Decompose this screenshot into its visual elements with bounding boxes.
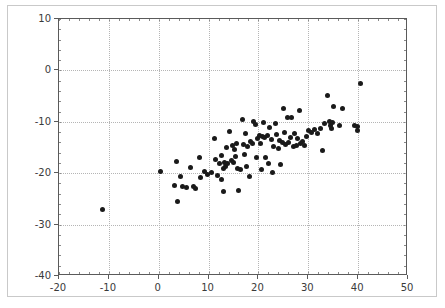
x-minor-tick	[378, 272, 379, 274]
scatter-point	[172, 183, 177, 188]
x-minor-tick	[248, 272, 249, 274]
x-minor-tick	[328, 19, 329, 21]
x-axis-tick	[407, 275, 408, 279]
x-minor-tick	[169, 19, 170, 21]
scatter-point	[236, 188, 241, 193]
x-minor-tick	[169, 272, 170, 274]
x-minor-tick	[189, 19, 190, 21]
x-minor-tick	[238, 272, 239, 274]
x-axis-tick	[108, 275, 109, 279]
scatter-point	[331, 104, 336, 109]
scatter-point	[315, 131, 320, 136]
scatter-point	[320, 148, 325, 153]
horizontal-gridline	[59, 173, 406, 174]
scatter-point	[234, 141, 239, 146]
x-minor-tick	[139, 272, 140, 274]
scatter-point	[278, 162, 283, 167]
x-minor-tick	[388, 19, 389, 21]
x-axis-tick-label: -20	[50, 282, 66, 293]
scatter-point	[329, 126, 334, 131]
x-axis-tick-label: 0	[155, 282, 161, 293]
scatter-point	[276, 146, 281, 151]
x-axis-tick-label: 50	[401, 282, 414, 293]
x-minor-tick	[338, 272, 339, 274]
scatter-point	[289, 115, 294, 120]
x-minor-tick	[348, 19, 349, 21]
y-minor-tick	[59, 183, 61, 184]
y-minor-tick	[59, 266, 61, 267]
vertical-gridline	[308, 19, 309, 274]
scatter-point	[193, 186, 198, 191]
scatter-point	[274, 132, 279, 137]
y-minor-tick	[404, 266, 406, 267]
x-axis-tick	[158, 275, 159, 279]
scatter-point	[242, 152, 247, 157]
y-minor-tick	[404, 60, 406, 61]
x-minor-tick	[338, 19, 339, 21]
y-axis-tick	[54, 172, 58, 173]
y-axis-tick	[54, 224, 58, 225]
x-minor-tick	[119, 272, 120, 274]
y-minor-tick	[59, 19, 61, 20]
y-minor-tick	[59, 101, 61, 102]
x-minor-tick	[149, 19, 150, 21]
x-minor-tick	[298, 272, 299, 274]
y-minor-tick	[59, 81, 61, 82]
scatter-point	[337, 123, 342, 128]
y-axis-tick-label: -40	[24, 270, 51, 281]
y-minor-tick	[404, 204, 406, 205]
y-axis-tick	[54, 121, 58, 122]
x-minor-tick	[268, 19, 269, 21]
scatter-plot-axes	[58, 18, 407, 275]
x-axis-tick-label: 20	[251, 282, 264, 293]
x-minor-tick	[278, 272, 279, 274]
y-axis-tick	[54, 275, 58, 276]
x-minor-tick	[189, 272, 190, 274]
x-axis-tick-label: 30	[301, 282, 314, 293]
scatter-point	[219, 153, 224, 158]
y-minor-tick	[404, 40, 406, 41]
y-minor-tick	[404, 112, 406, 113]
y-minor-tick	[404, 50, 406, 51]
x-minor-tick	[119, 19, 120, 21]
y-minor-tick	[404, 163, 406, 164]
scatter-point	[258, 141, 263, 146]
y-minor-tick	[59, 194, 61, 195]
scatter-point	[282, 130, 287, 135]
y-axis-tick	[54, 18, 58, 19]
x-minor-tick	[398, 272, 399, 274]
scatter-point	[174, 159, 179, 164]
scatter-point	[269, 137, 274, 142]
x-axis-tick	[257, 275, 258, 279]
y-minor-tick	[404, 255, 406, 256]
y-minor-tick	[404, 194, 406, 195]
x-minor-tick	[99, 19, 100, 21]
y-minor-tick	[59, 214, 61, 215]
scatter-point	[231, 160, 236, 165]
y-minor-tick	[404, 19, 406, 20]
scatter-point	[178, 174, 183, 179]
x-minor-tick	[129, 272, 130, 274]
vertical-gridline	[358, 19, 359, 274]
y-minor-tick	[404, 91, 406, 92]
scatter-point	[233, 154, 238, 159]
x-minor-tick	[199, 272, 200, 274]
y-axis-tick-label: -10	[24, 115, 51, 126]
x-minor-tick	[238, 19, 239, 21]
scatter-point	[232, 147, 237, 152]
horizontal-gridline	[59, 225, 406, 226]
scatter-point	[266, 161, 271, 166]
scatter-point	[281, 106, 286, 111]
horizontal-gridline	[59, 70, 406, 71]
scatter-point	[238, 167, 243, 172]
x-minor-tick	[69, 272, 70, 274]
x-minor-tick	[288, 19, 289, 21]
scatter-point	[212, 136, 217, 141]
scatter-point	[221, 189, 226, 194]
x-minor-tick	[248, 19, 249, 21]
scatter-point	[355, 128, 360, 133]
y-minor-tick	[404, 81, 406, 82]
y-axis-tick-label: -20	[24, 167, 51, 178]
scatter-point	[100, 207, 105, 212]
scatter-point	[270, 170, 275, 175]
